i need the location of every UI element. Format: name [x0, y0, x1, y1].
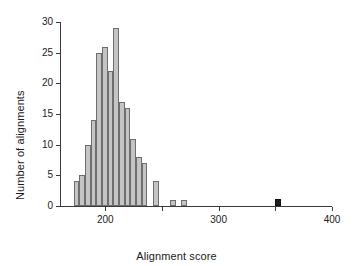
y-axis-tick-label: 30 — [23, 16, 53, 27]
y-axis-tick — [56, 206, 60, 207]
x-axis-tick — [219, 207, 220, 211]
x-axis-tick — [105, 207, 106, 211]
histogram-bar — [142, 163, 148, 206]
x-axis-tick-label: 400 — [312, 214, 352, 225]
x-axis-line — [60, 206, 332, 207]
x-axis-title: Alignment score — [0, 250, 353, 262]
histogram-bar — [153, 181, 159, 206]
y-axis-tick-label: 0 — [23, 200, 53, 211]
y-axis-tick-label: 15 — [23, 108, 53, 119]
y-axis-tick-label: 25 — [23, 47, 53, 58]
histogram-bar — [170, 200, 176, 206]
histogram-figure: Number of alignments Alignment score 051… — [0, 0, 353, 266]
x-axis-tick — [162, 207, 163, 211]
x-axis-tick-label: 200 — [85, 214, 125, 225]
x-axis-tick-label: 300 — [199, 214, 239, 225]
x-axis-tick — [332, 207, 333, 211]
histogram-bar — [181, 200, 187, 206]
x-axis-tick — [275, 207, 276, 211]
y-axis-tick-label: 20 — [23, 77, 53, 88]
histogram-bar — [275, 199, 281, 206]
y-axis-tick-label: 10 — [23, 139, 53, 150]
y-axis-tick-label: 5 — [23, 169, 53, 180]
plot-area — [60, 22, 332, 206]
